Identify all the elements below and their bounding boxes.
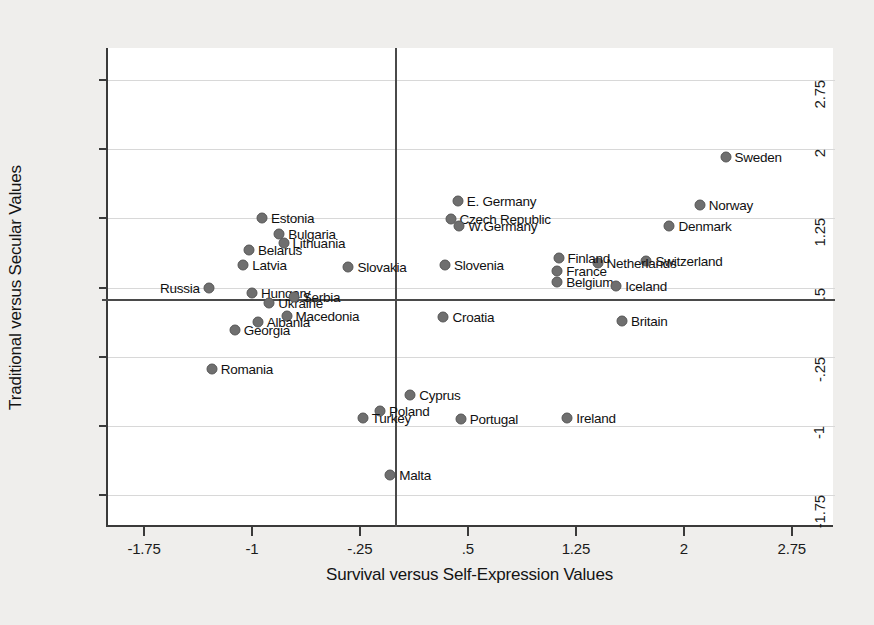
data-point-label: Portugal xyxy=(470,412,518,427)
y-axis-tick xyxy=(99,494,108,496)
data-point[interactable] xyxy=(206,363,217,374)
data-point[interactable] xyxy=(343,262,354,273)
data-point-label: Romania xyxy=(221,361,273,376)
data-point[interactable] xyxy=(405,390,416,401)
data-point[interactable] xyxy=(439,260,450,271)
data-point[interactable] xyxy=(438,312,449,323)
data-point[interactable] xyxy=(203,282,214,293)
data-point-label: Cyprus xyxy=(419,388,460,403)
data-point[interactable] xyxy=(562,413,573,424)
data-point-label: E. Germany xyxy=(467,193,537,208)
data-point[interactable] xyxy=(454,220,465,231)
data-point-label: Britain xyxy=(631,313,668,328)
y-axis-tick xyxy=(99,148,108,150)
reference-line-vertical xyxy=(395,48,397,527)
data-point-label: Denmark xyxy=(678,218,731,233)
y-axis-tick xyxy=(99,425,108,427)
y-axis-tick-label: 2 xyxy=(811,149,828,157)
data-point[interactable] xyxy=(552,277,563,288)
data-point[interactable] xyxy=(694,199,705,210)
data-point[interactable] xyxy=(616,315,627,326)
x-axis-tick-label: 1.25 xyxy=(562,540,590,557)
data-point[interactable] xyxy=(452,195,463,206)
y-axis-tick-label: 1.25 xyxy=(811,218,828,246)
data-point[interactable] xyxy=(385,469,396,480)
chart-page: 2.7521.25.5-.25-1-1.75-1.75-1-.25.51.252… xyxy=(0,0,874,625)
data-point-label: Estonia xyxy=(271,210,314,225)
y-axis-tick xyxy=(99,217,108,219)
y-axis-title-anchor: Traditional versus Secular Values xyxy=(36,48,37,527)
x-axis-tick-label: 2 xyxy=(680,540,688,557)
data-point-label: Russia xyxy=(160,280,200,295)
data-point[interactable] xyxy=(552,265,563,276)
data-point[interactable] xyxy=(229,324,240,335)
gridline-horizontal xyxy=(108,149,835,150)
x-axis-title: Survival versus Self-Expression Values xyxy=(106,565,833,585)
x-axis-tick xyxy=(143,527,145,536)
data-point-label: Belgium xyxy=(566,275,613,290)
data-point[interactable] xyxy=(264,298,275,309)
data-point-label: Malta xyxy=(399,467,431,482)
data-point-label: Belarus xyxy=(258,242,302,257)
data-point-label: Slovenia xyxy=(454,258,504,273)
x-axis-tick xyxy=(359,527,361,536)
x-axis-tick-label: .5 xyxy=(462,540,474,557)
data-point-label: Norway xyxy=(709,197,753,212)
data-point-label: Croatia xyxy=(452,310,494,325)
gridline-horizontal xyxy=(108,80,835,81)
y-axis-tick-label: .5 xyxy=(811,288,828,300)
y-axis-tick-label: -1.75 xyxy=(811,495,828,528)
y-axis-tick-label: 2.75 xyxy=(811,80,828,108)
data-point-label: Latvia xyxy=(252,258,287,273)
y-axis-title: Traditional versus Secular Values xyxy=(6,48,26,527)
data-point[interactable] xyxy=(257,212,268,223)
x-axis-tick xyxy=(683,527,685,536)
x-axis-tick-label: 2.75 xyxy=(778,540,806,557)
data-point[interactable] xyxy=(664,220,675,231)
data-point[interactable] xyxy=(720,151,731,162)
x-axis-tick xyxy=(791,527,793,536)
y-axis-tick-label: -1 xyxy=(811,426,828,439)
gridline-horizontal xyxy=(108,495,835,496)
data-point-label: W.Germany xyxy=(468,218,537,233)
x-axis-tick-label: -1.75 xyxy=(127,540,160,557)
gridline-horizontal xyxy=(108,288,835,289)
data-point[interactable] xyxy=(553,253,564,264)
data-point[interactable] xyxy=(611,280,622,291)
data-point-label: Sweden xyxy=(735,149,782,164)
y-axis-tick-label: -.25 xyxy=(811,357,828,382)
data-point-label: Iceland xyxy=(625,278,667,293)
data-point[interactable] xyxy=(288,291,299,302)
reference-line-horizontal xyxy=(102,299,835,301)
y-axis-tick xyxy=(99,356,108,358)
data-point-label: Georgia xyxy=(244,322,290,337)
data-point-label: Ireland xyxy=(576,411,616,426)
x-axis-tick xyxy=(467,527,469,536)
data-point[interactable] xyxy=(247,288,258,299)
data-point[interactable] xyxy=(357,413,368,424)
x-axis-tick-label: -.25 xyxy=(347,540,372,557)
data-point-label: Netherlands xyxy=(607,255,677,270)
data-point[interactable] xyxy=(244,244,255,255)
data-point-label: Turkey xyxy=(372,411,411,426)
x-axis-tick xyxy=(251,527,253,536)
data-point-label: Slovakia xyxy=(357,260,406,275)
x-axis-tick xyxy=(575,527,577,536)
data-point[interactable] xyxy=(455,414,466,425)
gridline-horizontal xyxy=(108,357,835,358)
x-axis-tick-label: -1 xyxy=(246,540,259,557)
y-axis-tick xyxy=(99,287,108,289)
plot-area: 2.7521.25.5-.25-1-1.75-1.75-1-.25.51.252… xyxy=(106,48,833,527)
data-point[interactable] xyxy=(238,260,249,271)
data-point-label: Serbia xyxy=(303,289,341,304)
y-axis-tick xyxy=(99,79,108,81)
